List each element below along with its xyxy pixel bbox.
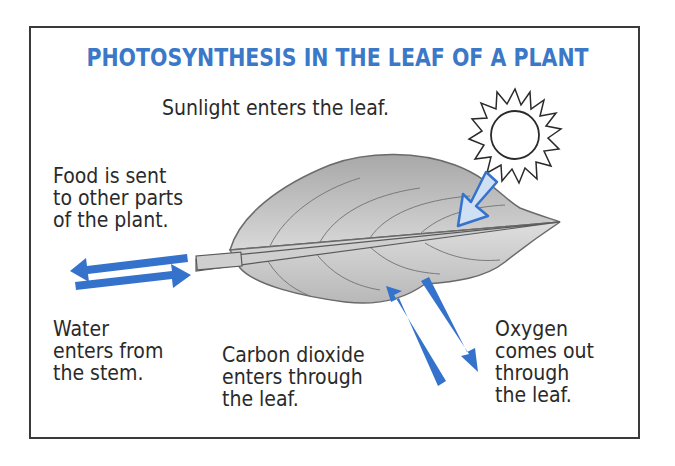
sunlight-label: Sunlight enters the leaf. (162, 97, 389, 119)
carbon-dioxide-label: Carbon dioxide enters through the leaf. (222, 344, 365, 410)
oxygen-label: Oxygen comes out through the leaf. (495, 318, 594, 406)
water-label: Water enters from the stem. (53, 318, 163, 384)
food-label: Food is sent to other parts of the plant… (53, 165, 183, 231)
sun-icon (469, 89, 561, 183)
